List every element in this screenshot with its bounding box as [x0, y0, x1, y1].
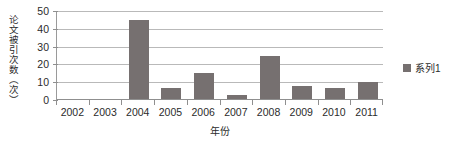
legend-swatch-icon — [403, 64, 411, 72]
bar-series-1 — [57, 11, 383, 100]
x-axis-tick-labels: 2002200320042005200620072008200920102011 — [56, 106, 383, 122]
x-axis-tick-mark — [318, 100, 319, 105]
bar-slot — [286, 11, 319, 100]
bar-slot — [57, 11, 90, 100]
bar-slot — [188, 11, 221, 100]
bar-slot — [90, 11, 123, 100]
y-axis-tick-label: 0 — [27, 94, 49, 106]
y-axis-tick-labels: 01020304050 — [26, 0, 52, 146]
x-axis-tick-label: 2009 — [290, 106, 313, 118]
x-axis-title: 年份 — [56, 123, 383, 138]
y-axis-tick-label: 20 — [27, 58, 49, 70]
bar-slot — [253, 11, 286, 100]
x-axis-tick-mark — [285, 100, 286, 105]
bar-slot — [351, 11, 384, 100]
y-axis-tick-label: 30 — [27, 41, 49, 53]
x-axis-tick-label: 2011 — [355, 106, 378, 118]
x-axis-tick-mark — [89, 100, 90, 105]
y-axis-tick-mark — [53, 82, 58, 83]
x-axis-tick-label: 2004 — [126, 106, 149, 118]
bar-slot — [122, 11, 155, 100]
x-axis-tick-label: 2010 — [322, 106, 345, 118]
x-axis-tick-mark — [56, 100, 57, 105]
bar — [358, 82, 378, 100]
x-axis-tick-label: 2003 — [93, 106, 116, 118]
x-axis-tick-mark — [350, 100, 351, 105]
x-axis-tick-label: 2002 — [61, 106, 84, 118]
bar — [194, 73, 214, 100]
x-axis-tick-label: 2005 — [159, 106, 182, 118]
y-axis-tick-label: 10 — [27, 76, 49, 88]
y-axis-tick-mark — [53, 11, 58, 12]
y-axis-tick-mark — [53, 29, 58, 30]
x-axis-tick-marks — [56, 100, 383, 105]
x-axis-tick-mark — [382, 100, 383, 105]
x-axis-tick-label: 2006 — [191, 106, 214, 118]
bar — [129, 20, 149, 100]
bar — [292, 86, 312, 100]
y-axis-tick-label: 40 — [27, 23, 49, 35]
chart-legend: 系列1 — [403, 60, 441, 75]
bar-slot — [221, 11, 254, 100]
plot-area — [56, 11, 383, 100]
y-axis-tick-label: 50 — [27, 5, 49, 17]
y-axis-title: 论文被引次数（次） — [2, 12, 24, 108]
y-axis-tick-mark — [53, 64, 58, 65]
x-axis-tick-mark — [252, 100, 253, 105]
legend-label-series-1: 系列1 — [415, 60, 441, 75]
bar-slot — [319, 11, 352, 100]
x-axis-tick-mark — [154, 100, 155, 105]
x-axis-tick-mark — [220, 100, 221, 105]
x-axis-tick-mark — [121, 100, 122, 105]
bar-slot — [155, 11, 188, 100]
x-axis-tick-mark — [187, 100, 188, 105]
x-axis-tick-label: 2008 — [257, 106, 280, 118]
y-axis-tick-mark — [53, 47, 58, 48]
bar — [260, 56, 280, 101]
x-axis-tick-label: 2007 — [224, 106, 247, 118]
bar-chart: 论文被引次数（次） 01020304050 200220032004200520… — [0, 0, 453, 146]
